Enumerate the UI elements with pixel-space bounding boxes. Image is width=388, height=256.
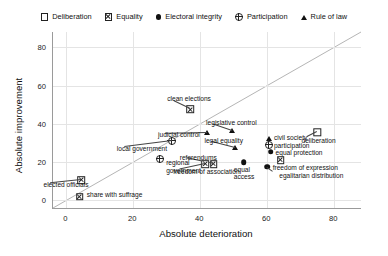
filled-triangle-icon bbox=[301, 15, 307, 20]
gridline-vertical bbox=[267, 32, 268, 208]
y-tick-label: 20 bbox=[28, 158, 46, 167]
data-point[interactable] bbox=[156, 155, 164, 163]
point-label: legal equality bbox=[204, 137, 243, 144]
y-axis-label: Absolute improvement bbox=[13, 56, 24, 196]
y-tick-label: 40 bbox=[28, 119, 46, 128]
gridline-horizontal bbox=[53, 47, 361, 48]
x-tick-label: 20 bbox=[128, 214, 136, 223]
point-label: elected officials bbox=[43, 181, 88, 188]
point-label: referendums bbox=[180, 154, 217, 161]
point-label: equal access bbox=[234, 166, 255, 181]
gridline-horizontal bbox=[53, 200, 361, 201]
point-label: share with suffrage bbox=[87, 191, 143, 198]
legend-item-rule[interactable]: Rule of law bbox=[301, 13, 348, 20]
point-label: judicial control bbox=[158, 131, 200, 138]
y-tick-label: 80 bbox=[28, 43, 46, 52]
y-tick-label: 0 bbox=[28, 196, 46, 205]
legend-item-label: Electoral integrity bbox=[165, 13, 222, 20]
legend-item-electoral[interactable]: Electoral integrity bbox=[156, 13, 222, 20]
legend-item-equality[interactable]: Equality bbox=[105, 13, 143, 21]
circle-with-cross-icon bbox=[235, 13, 243, 21]
point-label: legislative control bbox=[206, 119, 257, 126]
point-label: local government bbox=[117, 145, 167, 152]
point-label: freedom of association bbox=[173, 168, 239, 175]
y-tick-label: 60 bbox=[28, 81, 46, 90]
legend-item-label: Rule of law bbox=[311, 13, 348, 20]
gridline-vertical bbox=[334, 32, 335, 208]
point-label: egalitarian distribution bbox=[279, 172, 343, 179]
point-label: deliberation bbox=[301, 137, 335, 144]
square-with-x-icon bbox=[105, 13, 113, 21]
legend-item-label: Deliberation bbox=[52, 13, 91, 20]
scatter-chart: DeliberationEqualityElectoral integrityP… bbox=[0, 0, 388, 256]
x-tick-label: 80 bbox=[329, 214, 337, 223]
gridline-vertical bbox=[200, 32, 201, 208]
x-tick-label: 0 bbox=[63, 214, 67, 223]
data-point[interactable] bbox=[268, 149, 274, 155]
chart-legend: DeliberationEqualityElectoral integrityP… bbox=[0, 9, 388, 25]
point-label: freedom of expression bbox=[273, 164, 338, 171]
data-point[interactable] bbox=[277, 156, 285, 164]
x-tick-label: 60 bbox=[262, 214, 270, 223]
legend-item-deliberation[interactable]: Deliberation bbox=[41, 13, 92, 20]
filled-circle-icon bbox=[156, 14, 162, 20]
point-label: clean elections bbox=[167, 95, 211, 102]
data-point[interactable] bbox=[241, 159, 247, 165]
legend-item-label: Equality bbox=[116, 13, 142, 20]
x-tick-label: 40 bbox=[195, 214, 203, 223]
x-axis-label: Absolute deterioration bbox=[52, 228, 360, 239]
legend-item-label: Participation bbox=[247, 13, 288, 20]
legend-item-participation[interactable]: Participation bbox=[235, 13, 288, 21]
data-point[interactable] bbox=[265, 141, 273, 149]
plot-area: elected officialsshare with suffrageloca… bbox=[52, 32, 361, 209]
gridline-horizontal bbox=[53, 86, 361, 87]
open-square-icon bbox=[41, 13, 48, 20]
point-label: equal protection bbox=[276, 149, 323, 156]
gridline-vertical bbox=[133, 32, 134, 208]
data-point[interactable] bbox=[76, 193, 84, 201]
